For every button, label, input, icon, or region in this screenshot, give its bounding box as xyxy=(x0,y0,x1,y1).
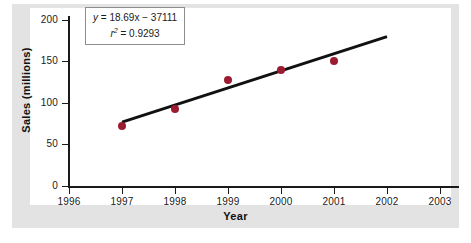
x-tick-label-2002: 2002 xyxy=(365,196,409,207)
x-tick-label-1997: 1997 xyxy=(100,196,144,207)
x-tick-label-2000: 2000 xyxy=(259,196,303,207)
y-tick-label-0: 0 xyxy=(18,180,58,191)
y-tick-label-200: 200 xyxy=(18,14,58,25)
data-point-1998 xyxy=(171,105,179,113)
x-tick-label-1998: 1998 xyxy=(153,196,197,207)
data-point-2000 xyxy=(277,66,285,74)
x-axis-line xyxy=(68,186,459,188)
regression-equation-line: y = 18.69x − 37111 xyxy=(93,11,177,24)
equation-body: = 18.69x − 37111 xyxy=(98,12,177,23)
x-tick-label-2001: 2001 xyxy=(312,196,356,207)
r-squared-value: = 0.9293 xyxy=(118,28,160,39)
x-tick-1997 xyxy=(122,188,123,194)
y-tick-200 xyxy=(62,20,69,21)
r-squared-line: r2 = 0.9293 xyxy=(93,24,177,40)
y-tick-0 xyxy=(62,186,69,187)
y-tick-150 xyxy=(62,61,69,62)
x-tick-label-1999: 1999 xyxy=(206,196,250,207)
y-tick-label-100: 100 xyxy=(18,97,58,108)
y-tick-label-50: 50 xyxy=(18,138,58,149)
y-tick-50 xyxy=(62,144,69,145)
regression-equation-box: y = 18.69x − 37111 r2 = 0.9293 xyxy=(85,7,185,45)
data-point-2001 xyxy=(330,57,338,65)
x-tick-label-1996: 1996 xyxy=(47,196,91,207)
data-point-1999 xyxy=(224,76,232,84)
x-tick-2000 xyxy=(281,188,282,194)
y-axis-line xyxy=(68,16,70,188)
x-tick-2001 xyxy=(334,188,335,194)
x-tick-1998 xyxy=(175,188,176,194)
x-tick-label-2003: 2003 xyxy=(418,196,462,207)
x-tick-1996 xyxy=(69,188,70,194)
x-axis-title: Year xyxy=(0,210,471,222)
y-tick-label-150: 150 xyxy=(18,55,58,66)
y-tick-100 xyxy=(62,103,69,104)
x-tick-2002 xyxy=(387,188,388,194)
chart-figure: Sales (millions) 200 150 100 50 0 1996 1… xyxy=(0,0,471,243)
x-tick-1999 xyxy=(228,188,229,194)
x-tick-2003 xyxy=(440,188,441,194)
